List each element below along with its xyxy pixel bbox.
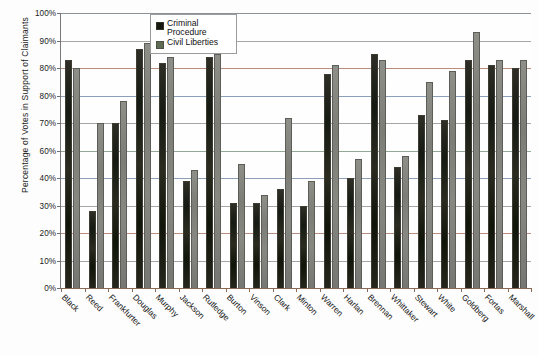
bar-civil-liberties (379, 60, 386, 288)
bar-civil-liberties (473, 32, 480, 288)
bar-civil-liberties (402, 156, 409, 288)
bar-criminal-procedure (277, 189, 284, 288)
legend-label: Civil Liberties (167, 38, 218, 47)
bar-group (277, 13, 293, 288)
y-tick-label: 100% (35, 9, 56, 18)
x-axis-label: Vinson (248, 292, 273, 317)
gridline (61, 261, 531, 262)
bar-criminal-procedure (488, 65, 495, 288)
bar-criminal-procedure (324, 74, 331, 289)
y-tick-mark (57, 206, 61, 207)
y-tick-mark (57, 261, 61, 262)
gridline (61, 96, 531, 97)
bar-group (371, 13, 387, 288)
y-tick-label: 60% (40, 146, 56, 155)
bar-civil-liberties (167, 57, 174, 288)
legend-item: Criminal Procedure (156, 19, 229, 37)
bar-civil-liberties (191, 170, 198, 288)
y-tick-label: 80% (40, 91, 56, 100)
bar-civil-liberties (520, 60, 527, 288)
x-axis-label: Clark (271, 292, 292, 313)
bar-group (89, 13, 105, 288)
y-tick-mark (57, 41, 61, 42)
bar-group (206, 13, 222, 288)
bar-group (159, 13, 175, 288)
gridline (61, 68, 531, 69)
bar-group (300, 13, 316, 288)
bar-civil-liberties (144, 43, 151, 288)
bar-civil-liberties (496, 60, 503, 288)
bar-group (112, 13, 128, 288)
bar-criminal-procedure (183, 181, 190, 288)
bar-criminal-procedure (394, 167, 401, 288)
bar-criminal-procedure (441, 120, 448, 288)
x-axis-label: Reed (83, 292, 104, 313)
y-tick-mark (57, 68, 61, 69)
y-tick-mark (57, 233, 61, 234)
bar-criminal-procedure (253, 203, 260, 288)
gridline (61, 206, 531, 207)
y-tick-mark (57, 96, 61, 97)
y-tick-mark (57, 151, 61, 152)
gridline (61, 123, 531, 124)
legend-item: Civil Liberties (156, 38, 229, 49)
y-tick-label: 30% (40, 201, 56, 210)
gridline (61, 151, 531, 152)
bar-civil-liberties (355, 159, 362, 288)
legend-swatch-criminal (156, 22, 164, 30)
bar-group (488, 13, 504, 288)
x-tick-mark (531, 288, 532, 292)
x-axis-labels: BlackReedFrankfurterDouglasMurphyJackson… (60, 292, 530, 356)
bar-group (512, 13, 528, 288)
bar-group (183, 13, 199, 288)
gridline (61, 13, 531, 14)
gridline (61, 178, 531, 179)
legend-swatch-civil (156, 41, 164, 49)
y-tick-label: 70% (40, 119, 56, 128)
bar-civil-liberties (214, 54, 221, 288)
x-axis-label: Harlan (342, 292, 367, 317)
bar-civil-liberties (332, 65, 339, 288)
bar-group (347, 13, 363, 288)
bar-criminal-procedure (230, 203, 237, 288)
bar-group (441, 13, 457, 288)
bar-criminal-procedure (347, 178, 354, 288)
legend-label: Criminal Procedure (167, 19, 229, 37)
bar-civil-liberties (308, 181, 315, 288)
bar-chart: Percentage of Votes in Support of Claima… (0, 0, 538, 356)
y-tick-mark (57, 123, 61, 124)
bar-criminal-procedure (65, 60, 72, 288)
y-axis-title: Percentage of Votes in Support of Claima… (20, 0, 30, 235)
gridline (61, 233, 531, 234)
bar-civil-liberties (97, 123, 104, 288)
bar-civil-liberties (285, 118, 292, 289)
bar-group (253, 13, 269, 288)
bar-group (465, 13, 481, 288)
bar-criminal-procedure (136, 49, 143, 288)
y-tick-mark (57, 13, 61, 14)
bar-civil-liberties (449, 71, 456, 288)
bar-criminal-procedure (418, 115, 425, 288)
bar-group (394, 13, 410, 288)
x-axis-label: Minton (295, 292, 320, 317)
bar-criminal-procedure (465, 60, 472, 288)
bar-criminal-procedure (89, 211, 96, 288)
y-tick-mark (57, 178, 61, 179)
bar-group (324, 13, 340, 288)
bar-criminal-procedure (512, 68, 519, 288)
y-tick-label: 20% (40, 229, 56, 238)
x-axis-label: Black (60, 292, 82, 314)
bar-group (136, 13, 152, 288)
bar-criminal-procedure (159, 63, 166, 289)
plot-area: 100%90%80%80%70%60%40%30%20%10%0% (60, 13, 531, 289)
bar-group (230, 13, 246, 288)
bar-criminal-procedure (300, 206, 307, 289)
bar-group (418, 13, 434, 288)
y-tick-label: 10% (40, 256, 56, 265)
bar-civil-liberties (426, 82, 433, 288)
bar-civil-liberties (120, 101, 127, 288)
gridline (61, 41, 531, 42)
y-tick-label: 40% (40, 174, 56, 183)
bar-criminal-procedure (371, 54, 378, 288)
bar-civil-liberties (261, 195, 268, 289)
